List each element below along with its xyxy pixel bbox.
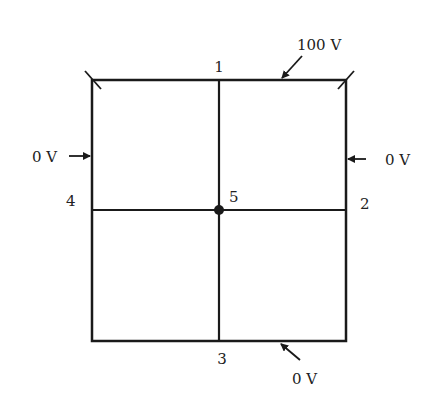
label-bottom-voltage: 0 V [292, 370, 318, 388]
node-2-label: 2 [360, 195, 370, 213]
node-5-dot [214, 205, 224, 215]
node-5-label: 5 [229, 188, 239, 206]
diagram-canvas: 100 V 0 V 0 V 0 V 1 2 3 4 5 [0, 0, 439, 403]
label-right-voltage: 0 V [385, 151, 411, 169]
node-4-label: 4 [66, 192, 76, 210]
arrow-top-icon [282, 56, 302, 78]
arrow-bottom-icon [281, 344, 300, 360]
label-left-voltage: 0 V [32, 148, 58, 166]
node-3-label: 3 [217, 350, 227, 368]
node-1-label: 1 [214, 58, 224, 76]
label-top-voltage: 100 V [297, 36, 342, 54]
